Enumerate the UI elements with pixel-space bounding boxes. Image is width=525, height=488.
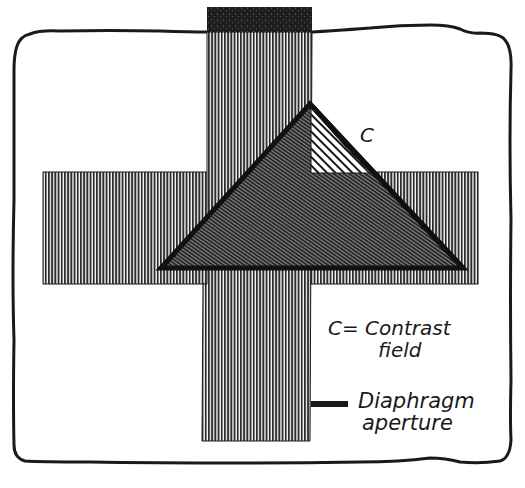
legend-contrast-line1: C= Contrast	[328, 316, 452, 340]
c-marker-label: C	[360, 123, 374, 147]
diagram-canvas: C C= Contrast field Diaphragm aperture	[0, 0, 525, 488]
diagram-svg: C C= Contrast field Diaphragm aperture	[0, 0, 525, 488]
diaphragm-aperture-swatch	[311, 401, 348, 407]
legend-diaphragm-line2: aperture	[362, 411, 453, 435]
legend-diaphragm-line1: Diaphragm	[358, 389, 475, 413]
top-cap	[207, 7, 312, 32]
legend-contrast-line2: field	[378, 338, 422, 362]
